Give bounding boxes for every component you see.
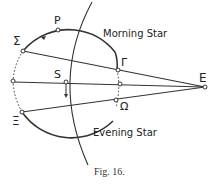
venus-orbit-upper-left (23, 30, 75, 51)
orbit-diagram: P Σ Γ S E Ξ Ω Morning Star Evening Star … (0, 0, 220, 189)
label-gamma: Γ (121, 56, 128, 69)
figure-caption: Fig. 16. (94, 166, 125, 177)
label-omega: Ω (120, 100, 128, 113)
line-sigma-E (23, 51, 205, 87)
point-Xi (20, 110, 24, 114)
line-center-E (13, 82, 205, 87)
label-E: E (199, 71, 207, 85)
point-Omega (114, 98, 118, 102)
point-P (56, 28, 60, 32)
label-P: P (54, 14, 61, 27)
label-xi: Ξ (12, 114, 20, 128)
label-morning-star: Morning Star (103, 28, 168, 39)
arrow-down-icon (64, 94, 68, 98)
point-left (11, 79, 15, 83)
point-S (64, 80, 68, 84)
label-S: S (54, 68, 61, 81)
point-Sigma (21, 49, 25, 53)
label-sigma: Σ (13, 34, 21, 48)
line-xi-E (22, 87, 205, 112)
point-mid (118, 82, 122, 86)
point-E (203, 85, 207, 89)
label-evening-star: Evening Star (93, 127, 158, 138)
point-Gamma (116, 68, 120, 72)
